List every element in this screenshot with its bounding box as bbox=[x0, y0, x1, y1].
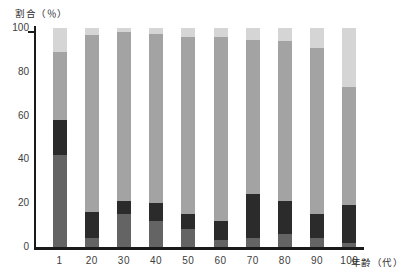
stacked-bar-100 bbox=[342, 28, 356, 247]
bar-segment-dark-gray-bottom-segment bbox=[53, 155, 67, 247]
y-tick-label-100: 100 bbox=[0, 22, 29, 34]
x-tick-label-20: 20 bbox=[76, 255, 108, 267]
bar-segment-black-segment bbox=[310, 214, 324, 238]
x-tick-label-70: 70 bbox=[237, 255, 269, 267]
bar-segment-medium-gray-segment bbox=[214, 37, 228, 221]
x-tick-label-30: 30 bbox=[108, 255, 140, 267]
bar-segment-dark-gray-bottom-segment bbox=[246, 238, 260, 247]
bar-segment-dark-gray-bottom-segment bbox=[342, 243, 356, 247]
stacked-bar-20 bbox=[85, 28, 99, 247]
x-axis-line bbox=[34, 247, 364, 250]
bar-segment-dark-gray-bottom-segment bbox=[214, 240, 228, 247]
bar-segment-dark-gray-bottom-segment bbox=[149, 221, 163, 247]
stacked-bar-70 bbox=[246, 28, 260, 247]
stacked-bar-1 bbox=[53, 28, 67, 247]
bar-segment-medium-gray-segment bbox=[149, 34, 163, 204]
bar-segment-medium-gray-segment bbox=[310, 48, 324, 214]
bar-segment-medium-gray-segment bbox=[278, 41, 292, 201]
bar-segment-dark-gray-bottom-segment bbox=[85, 238, 99, 247]
y-axis-line bbox=[34, 26, 36, 249]
y-axis-title: 割合（％） bbox=[15, 6, 68, 20]
bar-segment-light-gray-top-segment bbox=[310, 28, 324, 48]
bar-segment-black-segment bbox=[342, 205, 356, 242]
stacked-bar-80 bbox=[278, 28, 292, 247]
bar-segment-medium-gray-segment bbox=[181, 37, 195, 214]
y-tick-label-80: 80 bbox=[0, 66, 29, 78]
bar-segment-black-segment bbox=[117, 201, 131, 214]
bar-segment-light-gray-top-segment bbox=[342, 28, 356, 87]
bar-segment-dark-gray-bottom-segment bbox=[278, 234, 292, 247]
stacked-bar-40 bbox=[149, 28, 163, 247]
bar-segment-light-gray-top-segment bbox=[246, 28, 260, 40]
bar-segment-dark-gray-bottom-segment bbox=[310, 238, 324, 247]
bar-segment-black-segment bbox=[278, 201, 292, 234]
y-tick-label-20: 20 bbox=[0, 197, 29, 209]
y-tick-label-60: 60 bbox=[0, 110, 29, 122]
x-tick-label-50: 50 bbox=[172, 255, 204, 267]
bar-segment-medium-gray-segment bbox=[246, 40, 260, 194]
bar-segment-black-segment bbox=[181, 214, 195, 229]
y-tick-label-0: 0 bbox=[0, 241, 29, 253]
bar-segment-medium-gray-segment bbox=[342, 87, 356, 205]
x-tick-label-40: 40 bbox=[140, 255, 172, 267]
stacked-bar-30 bbox=[117, 28, 131, 247]
bar-segment-light-gray-top-segment bbox=[214, 28, 228, 37]
bar-segment-black-segment bbox=[85, 212, 99, 238]
bar-segment-light-gray-top-segment bbox=[53, 28, 67, 52]
stacked-bar-60 bbox=[214, 28, 228, 247]
stacked-bar-chart: 割合（％） 02040608010012030405060708090100 年… bbox=[0, 0, 404, 278]
x-tick-label-90: 90 bbox=[301, 255, 333, 267]
x-tick-label-60: 60 bbox=[205, 255, 237, 267]
bar-segment-dark-gray-bottom-segment bbox=[181, 229, 195, 247]
bar-segment-light-gray-top-segment bbox=[278, 28, 292, 41]
bar-segment-black-segment bbox=[246, 194, 260, 238]
bar-segment-black-segment bbox=[149, 203, 163, 221]
y-tick-label-40: 40 bbox=[0, 153, 29, 165]
bar-segment-black-segment bbox=[53, 120, 67, 155]
stacked-bar-90 bbox=[310, 28, 324, 247]
bar-segment-light-gray-top-segment bbox=[181, 28, 195, 37]
bar-segment-dark-gray-bottom-segment bbox=[117, 214, 131, 247]
x-axis-title: 年齢（代） bbox=[351, 255, 404, 269]
bar-segment-black-segment bbox=[214, 221, 228, 241]
stacked-bar-50 bbox=[181, 28, 195, 247]
x-tick-label-80: 80 bbox=[269, 255, 301, 267]
y-axis-tick-100 bbox=[28, 31, 35, 33]
bar-segment-medium-gray-segment bbox=[117, 32, 131, 201]
bar-segment-medium-gray-segment bbox=[53, 52, 67, 120]
bar-segment-medium-gray-segment bbox=[85, 35, 99, 212]
x-tick-label-1: 1 bbox=[44, 255, 76, 267]
